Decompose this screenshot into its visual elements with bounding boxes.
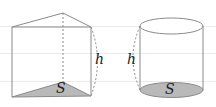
prism-height-label: h (95, 52, 104, 66)
background-gridlines (0, 27, 216, 82)
figure-canvas: S h S h (0, 0, 216, 107)
solids-diagram (0, 0, 216, 107)
cylinder-height-label: h (127, 52, 136, 66)
prism-base-area (12, 82, 91, 97)
prism-top-edges (12, 13, 91, 27)
triangular-prism (12, 13, 98, 97)
cylinder-base-label: S (165, 82, 175, 96)
cylinder-top (140, 18, 203, 34)
prism-base-label: S (56, 81, 66, 95)
